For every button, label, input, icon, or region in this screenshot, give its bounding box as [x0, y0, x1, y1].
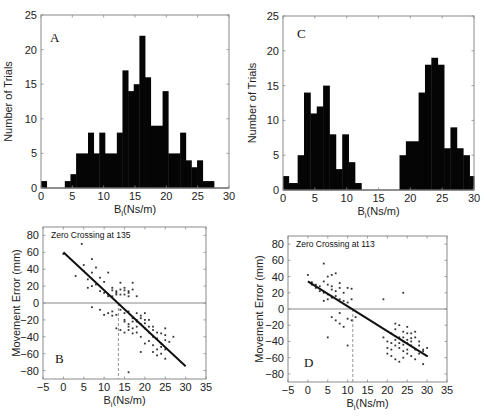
data-point	[81, 243, 83, 245]
histogram-bar	[444, 148, 451, 190]
histogram-bar	[336, 169, 343, 190]
data-point	[120, 329, 122, 331]
x-tick-label: 0	[280, 192, 286, 204]
data-point	[132, 333, 134, 335]
data-point	[402, 331, 404, 333]
x-axis-label: Bi(Ns/m)	[114, 203, 156, 218]
histogram-bar	[450, 127, 457, 190]
y-tick-label: 25	[25, 9, 37, 21]
x-tick-label: 35	[200, 381, 212, 393]
data-point	[398, 347, 400, 349]
scatter-panel-b: Zero Crossing at 135−5051015202530358060…	[10, 227, 212, 409]
data-point	[402, 350, 404, 352]
data-point	[140, 317, 142, 319]
histogram-bar	[65, 181, 71, 188]
data-point	[335, 295, 337, 297]
y-axis-label: Number of Trials	[2, 61, 14, 142]
data-point	[160, 353, 162, 355]
data-point	[152, 329, 154, 331]
data-point	[323, 263, 325, 265]
x-tick-label: 15	[372, 192, 384, 204]
histogram-bar	[163, 91, 169, 188]
data-point	[115, 314, 117, 316]
y-tick-label: 10	[25, 113, 37, 125]
data-point	[128, 326, 130, 328]
data-point	[402, 357, 404, 359]
histogram-bar	[329, 134, 336, 190]
data-point	[91, 285, 93, 287]
data-point	[156, 332, 158, 334]
data-point	[351, 298, 353, 300]
data-point	[390, 342, 392, 344]
data-point	[319, 285, 321, 287]
data-point	[91, 272, 93, 274]
data-point	[422, 350, 424, 352]
zero-crossing-annotation: Zero Crossing at 135	[51, 230, 131, 240]
data-point	[152, 344, 154, 346]
data-point	[148, 319, 150, 321]
data-point	[124, 319, 126, 321]
x-tick-label: 5	[81, 381, 87, 393]
data-point	[331, 316, 333, 318]
histogram-bar	[94, 153, 100, 188]
data-point	[327, 298, 329, 300]
data-point	[124, 289, 126, 291]
data-point	[343, 292, 345, 294]
y-tick-label: 20	[272, 287, 284, 299]
x-tick-label: 0	[38, 190, 44, 202]
data-point	[152, 351, 154, 353]
data-point	[111, 315, 113, 317]
data-point	[75, 275, 77, 277]
data-point	[402, 336, 404, 338]
histogram-bar	[168, 153, 180, 188]
histogram-bar	[191, 167, 197, 188]
data-point	[402, 292, 404, 294]
x-tick-label: 25	[192, 190, 204, 202]
data-point	[91, 306, 93, 308]
y-tick-label: 5	[273, 149, 279, 161]
x-tick-label: 25	[401, 384, 413, 396]
data-point	[128, 290, 130, 292]
histogram-bar	[88, 133, 94, 188]
data-point	[99, 309, 101, 311]
data-point	[386, 353, 388, 355]
y-tick-label: 15	[25, 78, 37, 90]
x-tick-label: 30	[180, 381, 192, 393]
y-tick-label: 20	[25, 44, 37, 56]
y-tick-label: −40	[265, 335, 284, 347]
x-tick-label: 30	[468, 192, 480, 204]
x-tick-label: 5	[312, 192, 318, 204]
data-point	[124, 332, 126, 334]
histogram-panel-a: 0510152025300510152025Bi(Ns/m)Number of …	[2, 9, 235, 218]
data-point	[156, 354, 158, 356]
y-tick-label: −80	[20, 365, 39, 377]
data-point	[398, 324, 400, 326]
data-point	[124, 294, 126, 296]
data-point	[115, 290, 117, 292]
panel-letter: A	[50, 30, 60, 45]
data-point	[132, 289, 134, 291]
data-point	[343, 300, 345, 302]
x-tick-label: 15	[118, 381, 130, 393]
data-point	[406, 332, 408, 334]
x-tick-label: 35	[441, 384, 453, 396]
histogram-bar	[400, 155, 407, 190]
data-point	[351, 288, 353, 290]
histogram-panel-c: 0510152025300510152025Bi(Ns/m)Number of …	[246, 10, 480, 220]
x-axis-label: Bi(Ns/m)	[357, 205, 399, 220]
data-point	[414, 336, 416, 338]
data-point	[347, 318, 349, 320]
x-axis-label: Bi(Ns/m)	[103, 394, 145, 409]
x-tick-label: 10	[98, 381, 110, 393]
regression-line	[63, 252, 185, 366]
histogram-bar	[151, 126, 163, 188]
data-point	[124, 321, 126, 323]
data-point	[390, 349, 392, 351]
data-point	[107, 272, 109, 274]
histogram-bar	[438, 65, 445, 190]
data-point	[323, 300, 325, 302]
data-point	[331, 289, 333, 291]
data-point	[414, 331, 416, 333]
data-point	[164, 358, 166, 360]
y-tick-label: −60	[265, 352, 284, 364]
